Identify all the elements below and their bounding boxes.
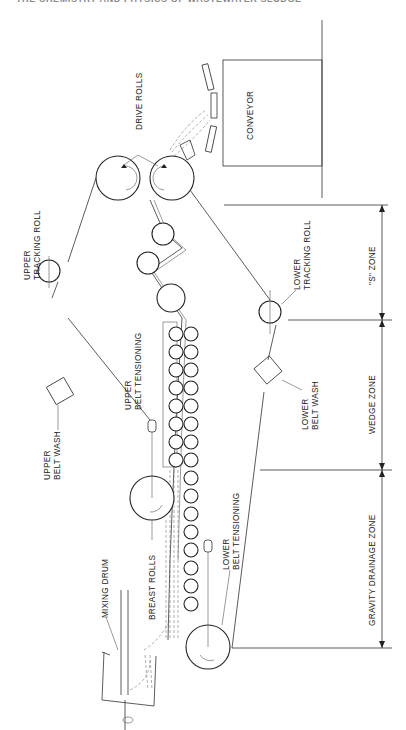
- conveyor: CONVEYOR: [202, 20, 322, 198]
- gravity-zone-rolls: [184, 471, 198, 611]
- gravity-drainage-zone-label: GRAVITY DRAINAGE ZONE: [368, 514, 377, 626]
- lower-belt-wash-label-1: LOWER: [301, 398, 310, 430]
- upper-belt-tensioning: UPPER BELT TENSIONING: [124, 333, 156, 490]
- lower-tracking-roll-label-2: TRACKING ROLL: [303, 220, 312, 290]
- lower-tracking-roll-label-1: LOWER: [293, 258, 302, 290]
- upper-tracking-roll-label-1: UPPER: [23, 250, 32, 280]
- mixing-drum-label: MIXING DRUM: [101, 559, 110, 618]
- lower-belt-tensioning-label-1: LOWER: [222, 538, 231, 570]
- mixing-drum: MIXING DRUM: [101, 559, 170, 730]
- upper-belt-wash-label-2: BELT WASH: [53, 431, 62, 480]
- lower-belt-tensioning: LOWER BELT TENSIONING: [204, 493, 241, 625]
- upper-belt-tensioning-label-1: UPPER: [124, 380, 133, 410]
- breast-rolls: BREAST ROLLS: [130, 476, 230, 669]
- upper-belt-tensioning-label-2: BELT TENSIONING: [134, 333, 143, 410]
- conveyor-label: CONVEYOR: [246, 91, 255, 140]
- drive-rolls-label: DRIVE ROLLS: [135, 72, 144, 130]
- belt-filter-press-diagram: CONVEYOR DRIVE ROLLS: [0, 0, 406, 730]
- upper-tracking-roll: UPPER TRACKING ROLL: [23, 210, 60, 288]
- breast-rolls-label: BREAST ROLLS: [148, 554, 157, 620]
- s-zone-label: "S" ZONE: [368, 246, 377, 285]
- lower-belt-wash-label-2: BELT WASH: [311, 381, 320, 430]
- upper-belt-wash-label-1: UPPER: [43, 450, 52, 480]
- upper-tracking-roll-label-2: TRACKING ROLL: [33, 210, 42, 280]
- lower-belt-tensioning-label-2: BELT TENSIONING: [232, 493, 241, 570]
- lower-belt: [150, 190, 276, 648]
- upper-belt-wash: UPPER BELT WASH: [43, 377, 74, 480]
- cake-discharge: [170, 110, 210, 160]
- lower-tracking-roll: LOWER TRACKING ROLL: [259, 220, 312, 334]
- wedge-zone-label: WEDGE ZONE: [368, 375, 377, 434]
